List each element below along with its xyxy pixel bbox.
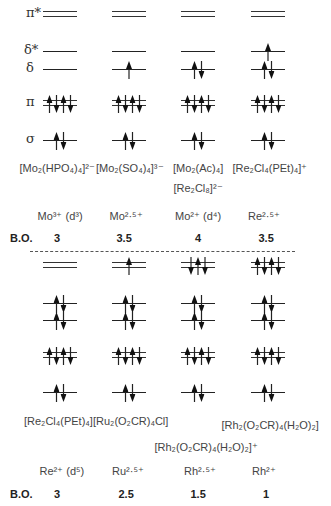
spin-up-arrow-icon <box>61 347 67 365</box>
spin-down-arrow-icon <box>130 312 136 330</box>
metal-ion-label: Rh²⁺ <box>252 465 276 478</box>
bond-order-value: 1.5 <box>191 488 206 500</box>
electron-arrows <box>262 384 275 402</box>
spin-down-arrow-icon <box>192 347 198 365</box>
electron-arrows <box>123 132 136 150</box>
metal-ion-label: Mo²·⁵⁺ <box>110 210 143 223</box>
spin-down-arrow-icon <box>199 132 205 150</box>
spin-down-arrow-icon <box>61 312 67 330</box>
spin-up-arrow-icon <box>130 95 136 113</box>
spin-up-arrow-icon <box>262 295 268 313</box>
spin-down-arrow-icon <box>188 257 194 275</box>
spin-down-arrow-icon <box>262 257 268 275</box>
metal-ion-label: Re²⁺ (d⁵) <box>40 465 85 478</box>
spin-up-arrow-icon <box>123 295 129 313</box>
spin-up-arrow-icon <box>192 384 198 402</box>
metal-ion-label: Mo²⁺ (d⁴) <box>175 210 221 223</box>
spin-up-arrow-icon <box>269 95 275 113</box>
spin-up-arrow-icon <box>126 257 132 275</box>
electron-arrows <box>192 384 205 402</box>
spin-up-arrow-icon <box>192 61 198 79</box>
electron-arrows <box>116 95 143 113</box>
spin-down-arrow-icon <box>137 95 143 113</box>
top-col2-pi-star-level <box>112 11 146 17</box>
metal-ion-label: Rh²·⁵⁺ <box>184 465 216 478</box>
spin-down-arrow-icon <box>269 384 275 402</box>
electron-arrows <box>192 312 205 330</box>
electron-arrows <box>54 312 67 330</box>
electron-arrows <box>123 312 136 330</box>
spin-down-arrow-icon <box>123 95 129 113</box>
top-col1-delta-star-level <box>43 51 77 52</box>
spin-up-arrow-icon <box>54 132 60 150</box>
spin-down-arrow-icon <box>61 384 67 402</box>
spin-down-arrow-icon <box>137 347 143 365</box>
spin-down-arrow-icon <box>276 95 282 113</box>
top-col1-pi-star-level <box>43 11 77 17</box>
top-col2-delta-star-level <box>112 51 146 52</box>
electron-arrows <box>126 61 132 79</box>
spin-down-arrow-icon <box>199 61 205 79</box>
electron-arrows <box>192 61 205 79</box>
spin-up-arrow-icon <box>192 312 198 330</box>
electron-arrows <box>255 347 282 365</box>
spin-down-arrow-icon <box>269 132 275 150</box>
spin-down-arrow-icon <box>206 347 212 365</box>
spin-down-arrow-icon <box>130 132 136 150</box>
spin-down-arrow-icon <box>199 295 205 313</box>
spin-up-arrow-icon <box>195 257 201 275</box>
bottom-col1-pi-star-level <box>43 262 77 268</box>
spin-up-arrow-icon <box>262 384 268 402</box>
electron-arrows <box>265 43 271 61</box>
spin-down-arrow-icon <box>61 295 67 313</box>
spin-down-arrow-icon <box>202 257 208 275</box>
electron-arrows <box>192 132 205 150</box>
spin-down-arrow-icon <box>54 95 60 113</box>
bond-order-value: 3.5 <box>117 232 132 244</box>
spin-up-arrow-icon <box>269 257 275 275</box>
bond-order-value: 3 <box>54 232 60 244</box>
spin-up-arrow-icon <box>123 312 129 330</box>
spin-up-arrow-icon <box>54 384 60 402</box>
spin-up-arrow-icon <box>126 61 132 79</box>
electron-arrows <box>262 61 275 79</box>
section-divider <box>30 251 295 252</box>
metal-ion-label: Re²·⁵⁺ <box>248 210 280 223</box>
spin-down-arrow-icon <box>262 95 268 113</box>
electron-arrows <box>123 384 136 402</box>
spin-down-arrow-icon <box>54 347 60 365</box>
spin-up-arrow-icon <box>47 347 53 365</box>
electron-arrows <box>126 257 132 275</box>
complex-label: [Mo₂(HPO₄)₄]²⁻ <box>20 162 95 175</box>
spin-down-arrow-icon <box>130 295 136 313</box>
complex-label: [Re₂Cl₄(PEt)₄] <box>24 415 93 427</box>
bond-order-value: 3 <box>54 488 60 500</box>
electron-arrows <box>54 384 67 402</box>
complex-label: [Re₂Cl₄(PEt)₄]⁺ <box>233 162 308 175</box>
bond-order-value: 2.5 <box>119 488 134 500</box>
bond-order-value: 3.5 <box>259 232 274 244</box>
metal-ion-label: Ru²·⁵⁺ <box>112 465 144 478</box>
complex-label: [Rh₂(O₂CR)₄(H₂O)₂]⁺ <box>155 441 258 454</box>
bond-order-value: 1 <box>263 488 269 500</box>
spin-up-arrow-icon <box>192 132 198 150</box>
complex-label: [Re₂Cl₈]²⁻ <box>174 182 223 195</box>
spin-down-arrow-icon <box>68 347 74 365</box>
spin-down-arrow-icon <box>206 95 212 113</box>
spin-up-arrow-icon <box>185 347 191 365</box>
spin-down-arrow-icon <box>130 384 136 402</box>
spin-up-arrow-icon <box>123 384 129 402</box>
top-col1-delta-level <box>43 69 77 70</box>
spin-down-arrow-icon <box>192 95 198 113</box>
electron-arrows <box>262 312 275 330</box>
spin-down-arrow-icon <box>123 347 129 365</box>
electron-arrows <box>262 132 275 150</box>
top-col3-pi-star-level <box>181 11 215 17</box>
electron-arrows <box>47 347 74 365</box>
level-label-sigma: σ <box>26 131 35 146</box>
complex-label: [Ru₂(O₂CR)₄Cl] <box>93 415 168 427</box>
top-col4-pi-star-level <box>251 11 285 17</box>
level-label-pi: π <box>26 94 35 109</box>
spin-down-arrow-icon <box>276 257 282 275</box>
spin-up-arrow-icon <box>116 95 122 113</box>
